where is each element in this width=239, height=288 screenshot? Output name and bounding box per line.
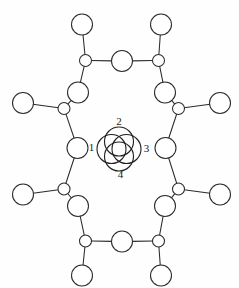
bond-line [66, 158, 75, 184]
atom-node [112, 231, 133, 252]
bond-line [159, 34, 160, 55]
bond-line [184, 190, 210, 193]
bond-line [169, 158, 177, 184]
atom-node [68, 82, 89, 103]
atom-node [112, 51, 133, 72]
atom-node [58, 103, 70, 115]
core-label-4: 4 [118, 168, 124, 180]
atom-node [173, 183, 185, 195]
bond-line [159, 246, 160, 265]
bond-line [33, 190, 59, 193]
bond-line [184, 104, 210, 107]
bond-line [80, 66, 84, 83]
core-label-2: 2 [116, 115, 122, 127]
bond-line [66, 114, 74, 139]
bond-line [33, 104, 59, 107]
bond-line [83, 34, 85, 55]
atom-node [151, 14, 172, 35]
atom-node [153, 235, 165, 247]
atom-node [155, 196, 176, 217]
atom-node [210, 184, 231, 205]
bond-line [160, 66, 163, 83]
atom-layer [13, 14, 231, 286]
atom-node [155, 82, 176, 103]
atom-node [173, 103, 185, 115]
atom-node [72, 265, 93, 286]
figure-canvas: 1234 [0, 0, 239, 288]
atom-node [153, 55, 165, 67]
atom-node [151, 265, 172, 286]
bond-line [80, 216, 84, 236]
core-ring-cluster [97, 127, 141, 171]
core-label-3: 3 [144, 142, 150, 154]
atom-node [155, 138, 176, 159]
bond-line [169, 114, 177, 139]
atom-node [80, 235, 92, 247]
atom-node [80, 55, 92, 67]
atom-node [68, 196, 89, 217]
atom-node [13, 184, 34, 205]
atom-node [67, 138, 88, 159]
atom-node [13, 93, 34, 114]
macrocycle-diagram: 1234 [0, 0, 239, 288]
bond-line [83, 246, 85, 265]
atom-node [210, 93, 231, 114]
core-label-1: 1 [89, 141, 95, 153]
bond-line [160, 216, 164, 236]
atom-node [58, 183, 70, 195]
atom-node [72, 14, 93, 35]
